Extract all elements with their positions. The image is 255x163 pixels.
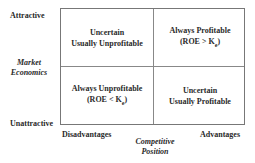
x-axis-title-line2: Position: [130, 147, 180, 157]
quadrant-grid: Uncertain Usually Unprofitable Always Pr…: [60, 8, 245, 125]
x-axis-left-label: Disadvantages: [62, 130, 111, 139]
y-axis-top-label: Attractive: [10, 11, 45, 20]
x-axis-title: Competitive Position: [130, 137, 180, 157]
y-axis-bottom-label: Unattractive: [10, 119, 53, 128]
quadrant-top-right: Always Profitable (ROE > Ke): [154, 9, 246, 66]
formula-suffix: ): [124, 95, 127, 104]
quadrant-top-left: Uncertain Usually Unprofitable: [61, 9, 153, 66]
quadrant-top-left-line2: Usually Unprofitable: [71, 38, 143, 49]
formula-suffix: ): [217, 37, 220, 46]
quadrant-bottom-right: Uncertain Usually Profitable: [154, 67, 246, 124]
formula-prefix: (ROE < K: [87, 95, 122, 104]
quadrant-bottom-right-line1: Uncertain: [183, 85, 217, 96]
quadrant-bottom-left: Always Unprofitable (ROE < Ke): [61, 67, 153, 124]
quadrant-top-right-line1: Always Profitable: [170, 25, 231, 36]
x-axis-right-label: Advantages: [200, 130, 240, 139]
quadrant-bottom-left-line2: (ROE < Ke): [87, 94, 127, 109]
quadrant-top-left-line1: Uncertain: [90, 27, 124, 38]
y-axis-title: Market Economics: [4, 58, 54, 78]
quadrant-bottom-left-line1: Always Unprofitable: [72, 83, 143, 94]
quadrant-top-right-line2: (ROE > Ke): [180, 36, 220, 51]
formula-prefix: (ROE > K: [180, 37, 215, 46]
y-axis-title-line1: Market: [4, 58, 54, 68]
quadrant-bottom-right-line2: Usually Profitable: [169, 96, 231, 107]
x-axis-title-line1: Competitive: [130, 137, 180, 147]
y-axis-title-line2: Economics: [4, 68, 54, 78]
